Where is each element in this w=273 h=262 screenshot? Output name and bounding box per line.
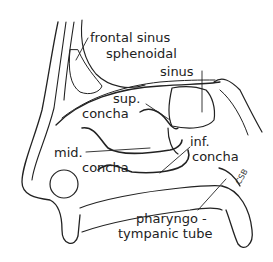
label-mid-concha-line2: concha xyxy=(82,160,129,175)
nostril xyxy=(50,170,78,198)
middle-concha xyxy=(82,128,182,154)
label-sphenoidal-line2: sinus xyxy=(160,64,194,79)
nasal-cavity-diagram: frontal sinus sphenoidal sinus sup. conc… xyxy=(0,0,273,262)
label-mid-concha-line1: mid. xyxy=(54,145,83,160)
label-pharyngo-line2: tympanic tube xyxy=(118,226,212,241)
artist-signature: CSB xyxy=(234,168,250,186)
leader-lines xyxy=(76,38,226,210)
label-frontal-sinus: frontal sinus xyxy=(90,30,170,45)
label-inf-concha-line1: inf. xyxy=(190,134,210,149)
sphenoidal-sinus xyxy=(169,79,262,135)
label-inf-concha-line2: concha xyxy=(192,149,239,164)
label-sup-concha-line1: sup. xyxy=(113,91,140,106)
label-sup-concha-line2: concha xyxy=(82,106,129,121)
nose-outline xyxy=(22,22,80,243)
label-pharyngo-line1: pharyngo - xyxy=(136,211,207,226)
label-sphenoidal-line1: sphenoidal xyxy=(106,46,177,61)
